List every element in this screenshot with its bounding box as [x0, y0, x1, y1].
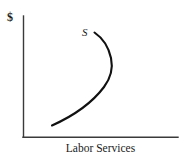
supply-curve-path — [52, 33, 112, 126]
x-axis-label: Labor Services — [0, 142, 191, 155]
plot-area — [0, 0, 191, 158]
supply-curve-label: S — [82, 27, 88, 38]
y-axis-label: $ — [7, 11, 13, 23]
supply-curve-figure: $ S Labor Services — [0, 0, 191, 158]
